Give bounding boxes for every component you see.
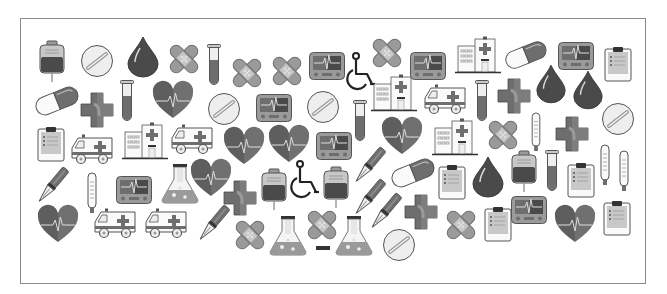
bandage-icon [270, 54, 304, 88]
cross-icon [555, 116, 589, 152]
test-tube-icon [545, 150, 559, 192]
scalpel-icon [33, 166, 71, 206]
thermometer-icon [618, 150, 630, 192]
test-tube-icon [207, 44, 221, 86]
ambulance-icon [70, 134, 114, 166]
ambulance-icon [93, 208, 137, 240]
ecg-monitor-icon [116, 176, 152, 204]
minus-bar-icon [316, 246, 330, 250]
hospital-icon [455, 36, 501, 74]
blood-drop-icon [126, 36, 160, 78]
wheelchair-icon [292, 160, 320, 200]
bandage-icon [230, 56, 264, 90]
thermometer-icon [599, 144, 611, 186]
ecg-monitor-icon [511, 196, 547, 224]
iv-bag-icon [510, 150, 538, 192]
ambulance-icon [423, 84, 467, 116]
clipboard-icon [604, 46, 632, 82]
iv-bag-icon [260, 168, 288, 210]
thermometer-icon [530, 112, 542, 152]
bandage-icon [444, 208, 478, 242]
iv-bag-icon [38, 40, 66, 82]
cross-icon [80, 92, 114, 128]
clipboard-icon [567, 162, 595, 198]
capsule-icon [390, 158, 436, 188]
hospital-icon [432, 118, 478, 156]
pill-tablet-icon [306, 90, 340, 124]
test-tube-icon [475, 80, 489, 122]
flask-icon [268, 216, 308, 256]
hospital-icon [122, 122, 168, 160]
pill-tablet-icon [207, 92, 241, 126]
heart-ecg-icon [268, 126, 310, 164]
ecg-monitor-icon [316, 132, 352, 160]
ecg-monitor-icon [309, 52, 345, 80]
bandage-icon [486, 118, 520, 152]
ambulance-icon [170, 124, 214, 156]
clipboard-icon [603, 200, 631, 236]
heart-ecg-icon [152, 82, 194, 120]
blood-drop-icon [535, 64, 567, 104]
test-tube-icon [120, 80, 134, 122]
blood-drop-icon [471, 156, 505, 198]
cross-icon [497, 78, 531, 114]
flask-icon [334, 216, 374, 256]
bandage-icon [167, 42, 201, 76]
iv-bag-icon [322, 166, 350, 208]
pill-tablet-icon [601, 102, 635, 136]
ecg-monitor-icon [256, 94, 292, 122]
test-tube-icon [353, 100, 367, 142]
clipboard-icon [438, 164, 466, 200]
bandage-icon [370, 36, 404, 70]
pill-tablet-icon [382, 228, 416, 262]
heart-ecg-icon [37, 206, 79, 244]
ambulance-icon [144, 208, 188, 240]
heart-ecg-icon [554, 206, 596, 244]
clipboard-icon [37, 126, 65, 162]
cross-icon [404, 194, 438, 230]
clipboard-icon [484, 206, 512, 242]
ecg-monitor-icon [410, 52, 446, 80]
pill-tablet-icon [80, 44, 114, 78]
capsule-icon [34, 86, 80, 116]
bandage-icon [233, 218, 267, 252]
scalpel-icon [194, 204, 232, 244]
blood-drop-icon [572, 70, 604, 110]
